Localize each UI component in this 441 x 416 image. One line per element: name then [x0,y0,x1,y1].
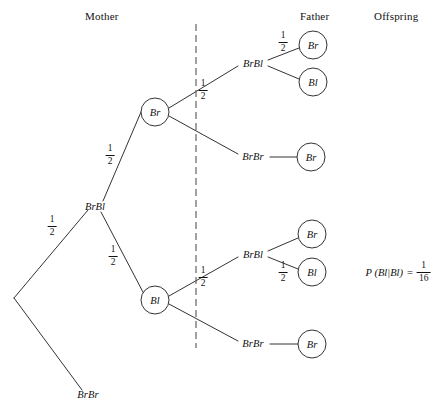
node-label-father-brbr-top: BrBr [242,151,263,162]
column-header-mother: Mother [85,10,119,22]
branch-probability-br-upper-branch: 1 2 [199,79,208,101]
node-label-father-brbl-top: BrBl [243,58,263,69]
fraction-numerator: 1 [48,215,57,227]
node-text-offspring-br-2: Br [306,152,317,163]
tree-lines-canvas [0,0,441,416]
result-equals-sign: = [407,267,413,278]
edge-fbrbl-bot-to-br [268,238,298,251]
fraction-numerator: 1 [106,144,115,156]
result-fraction: 1 16 [417,261,431,283]
fraction-denominator: 2 [279,273,288,284]
node-label-father-brbl-bottom: BrBl [243,249,263,260]
edge-br-to-father-brbr [169,116,238,154]
node-text-offspring-br-3: Br [307,229,318,240]
branch-probability-root-upper: 1 2 [48,215,57,237]
column-header-offspring: Offspring [374,10,418,22]
node-label-mother-brbl: BrBl [85,201,105,212]
fraction-denominator: 2 [106,156,115,167]
result-fraction-denominator: 16 [417,273,431,284]
edge-bl-to-father-brbr [169,304,238,341]
node-text-offspring-bl-3: Bl [307,267,316,278]
probability-tree-diagram: Mother Father Offspring BrBl BrBr Br Bl … [0,0,441,416]
edge-root-to-brbr [14,298,82,390]
node-label-mother-brbr: BrBr [77,389,98,400]
fraction-numerator: 1 [109,245,118,257]
result-fraction-numerator: 1 [417,261,431,273]
node-text-offspring-br-1: Br [308,40,319,51]
result-probability-expression: P (Bl|Bl) = 1 16 [366,261,431,283]
edge-fbrbl-top-to-bl [268,66,299,79]
branch-probability-brbl-to-br: 1 2 [106,144,115,166]
fraction-numerator: 1 [279,261,288,273]
node-label-father-brbr-bottom: BrBr [242,338,263,349]
edge-brbl-to-bl-circle [101,212,144,294]
fraction-numerator: 1 [199,266,208,278]
branch-probability-father-bl-bottom: 1 2 [279,261,288,283]
branch-probability-brbl-to-bl: 1 2 [109,245,118,267]
fraction-numerator: 1 [279,31,288,43]
branch-probability-father-br-top: 1 2 [279,31,288,53]
fraction-denominator: 2 [199,91,208,102]
column-header-father: Father [300,10,329,22]
node-text-mother-bl: Bl [150,295,159,306]
node-text-offspring-bl-1: Bl [308,77,317,88]
node-text-mother-br: Br [150,107,161,118]
branch-probability-bl-upper-branch: 1 2 [199,266,208,288]
result-expression-lhs: P (Bl|Bl) [366,267,403,278]
fraction-denominator: 2 [199,278,208,289]
node-text-offspring-br-4: Br [307,339,318,350]
fraction-numerator: 1 [199,79,208,91]
fraction-denominator: 2 [48,227,57,238]
fraction-denominator: 2 [109,257,118,268]
fraction-denominator: 2 [279,43,288,54]
